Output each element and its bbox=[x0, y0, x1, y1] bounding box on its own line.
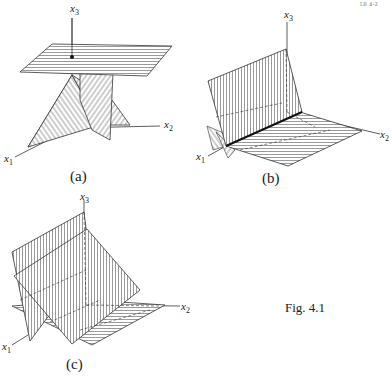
panel-b-diagram bbox=[207, 22, 380, 166]
panel-a-diagram bbox=[15, 18, 172, 157]
figure-canvas bbox=[0, 0, 392, 381]
panel-caption-c: (c) bbox=[66, 356, 83, 373]
panel-caption-b: (b) bbox=[262, 170, 280, 187]
axis-label-x2-b: x2 bbox=[380, 128, 389, 143]
axis-label-x1-b: x1 bbox=[196, 150, 205, 165]
axis-label-x1-a: x1 bbox=[4, 152, 13, 167]
figure-caption: Fig. 4.1 bbox=[285, 300, 325, 316]
axis-label-x2-c: x2 bbox=[181, 300, 190, 315]
axis-label-x2-a: x2 bbox=[164, 118, 173, 133]
panel-c-diagram bbox=[12, 200, 180, 345]
axis-label-x3-a: x3 bbox=[70, 2, 79, 17]
axis-label-x3-b: x3 bbox=[284, 8, 293, 23]
panel-caption-a: (a) bbox=[70, 168, 87, 185]
axis-label-x1-c: x1 bbox=[2, 340, 11, 355]
page-header-fragment: ᴸᴮ ⁴ˑ² bbox=[360, 0, 377, 10]
axis-label-x3-c: x3 bbox=[80, 190, 89, 205]
